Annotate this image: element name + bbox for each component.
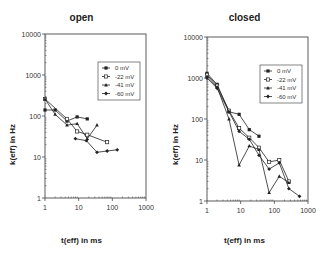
y-tick-label: 1000 [187, 75, 203, 82]
legend-label: -22 mV [277, 77, 296, 83]
data-point [247, 144, 251, 147]
data-point [106, 141, 109, 144]
data-point [76, 115, 79, 118]
data-point [248, 128, 251, 131]
y-tick-label: 1 [37, 195, 41, 202]
data-point [227, 117, 231, 120]
x-tick-label: 100 [106, 204, 118, 211]
data-point [266, 78, 269, 81]
data-point [95, 123, 99, 126]
y-tick-label: 1 [199, 198, 203, 205]
plot-closed: 11010010001000011010010000 mV-22 mV-41 m… [163, 0, 326, 260]
x-tick-label: 10 [237, 207, 245, 214]
data-point [74, 137, 78, 141]
data-point [268, 160, 271, 163]
y-tick-label: 10000 [184, 34, 204, 41]
panel-closed: closed k(eff) in Hz t(eff) in ms 1101001… [163, 0, 326, 260]
data-point [104, 75, 107, 78]
x-tick-label: 1 [205, 207, 209, 214]
series-line [45, 99, 107, 142]
legend-label: -22 mV [115, 74, 134, 80]
x-tick-label: 1000 [138, 204, 154, 211]
panel-open: open k(eff) in Hz t(eff) in ms 110100100… [0, 0, 163, 260]
data-point [238, 113, 241, 116]
legend-label: -41 mV [277, 85, 296, 91]
legend-label: 0 mV [277, 68, 291, 74]
data-point [257, 135, 260, 138]
data-point [65, 117, 68, 120]
y-tick-label: 1000 [25, 72, 41, 79]
data-point [277, 174, 281, 177]
y-tick-label: 10 [33, 154, 41, 161]
y-tick-label: 10 [195, 157, 203, 164]
data-point [86, 133, 89, 136]
data-point [115, 148, 119, 152]
data-point [105, 149, 109, 153]
data-point [75, 122, 79, 125]
data-point [86, 117, 89, 120]
legend-label: -60 mV [277, 94, 296, 100]
series-line [75, 139, 117, 153]
data-point [104, 66, 107, 69]
x-tick-label: 1000 [300, 207, 316, 214]
plot-frame [207, 37, 308, 201]
data-point [76, 130, 79, 133]
y-tick-label: 100 [29, 113, 41, 120]
y-tick-label: 10000 [22, 31, 42, 38]
legend-label: -60 mV [115, 91, 134, 97]
x-tick-label: 10 [75, 204, 83, 211]
x-tick-label: 1 [43, 204, 47, 211]
data-point [266, 69, 269, 72]
data-point [237, 163, 241, 166]
legend-label: -41 mV [115, 82, 134, 88]
legend-label: 0 mV [115, 65, 129, 71]
x-tick-label: 100 [268, 207, 280, 214]
plot-frame [45, 34, 146, 198]
data-point [43, 108, 46, 111]
plot-open: 11010010001000011010010000 mV-22 mV-41 m… [0, 0, 163, 260]
y-tick-label: 100 [191, 116, 203, 123]
